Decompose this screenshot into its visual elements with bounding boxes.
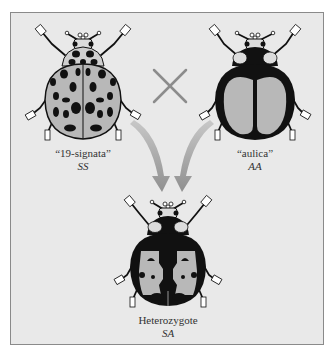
beetle-19-signata bbox=[28, 22, 138, 142]
genotype-sa: SA bbox=[128, 327, 208, 340]
offspring-name: Heterozygote bbox=[128, 314, 208, 327]
genotype-ss: SS bbox=[48, 160, 118, 173]
cross-symbol bbox=[150, 66, 190, 106]
inheritance-arrows bbox=[128, 118, 218, 194]
label-heterozygote: Heterozygote SA bbox=[128, 314, 208, 340]
label-19-signata: “19-signata” SS bbox=[48, 147, 118, 173]
genotype-aa: AA bbox=[220, 160, 290, 173]
beetle-heterozygote bbox=[113, 195, 223, 310]
parent-name-19-signata: “19-signata” bbox=[48, 147, 118, 160]
label-aulica: “aulica” AA bbox=[220, 147, 290, 173]
parent-name-aulica: “aulica” bbox=[220, 147, 290, 160]
